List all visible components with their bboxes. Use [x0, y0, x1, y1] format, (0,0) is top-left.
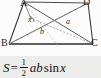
figure-area: A B C D x a b	[0, 0, 101, 56]
formula-fraction-one-half: 1 2	[20, 58, 28, 77]
side-AD	[24, 2, 88, 3]
formula-band: S = 1 2 ab sin x	[0, 56, 101, 78]
segment-label-a: a	[66, 18, 70, 26]
vertex-label-D: D	[83, 0, 90, 7]
formula-area-symbol: S	[3, 61, 10, 74]
vertex-label-C: C	[91, 38, 98, 48]
formula-equals-sign: =	[11, 61, 18, 74]
angle-label-x: x	[28, 16, 32, 24]
area-formula: S = 1 2 ab sin x	[3, 58, 66, 77]
formula-factors: ab	[30, 61, 43, 74]
vertex-label-A: A	[20, 0, 27, 8]
fraction-numerator: 1	[22, 58, 27, 66]
vertex-label-B: B	[1, 38, 8, 48]
quadrilateral-diagram	[0, 0, 101, 56]
fraction-denominator: 2	[22, 69, 27, 77]
diagonal-AC	[24, 2, 93, 44]
formula-sine-function: sin	[44, 61, 59, 74]
geometry-figure-screenshot: A B C D x a b S = 1 2 ab sin x	[0, 0, 101, 78]
formula-argument: x	[60, 61, 66, 74]
dashed-segment-aux	[24, 2, 58, 46]
segment-label-b: b	[40, 28, 44, 36]
